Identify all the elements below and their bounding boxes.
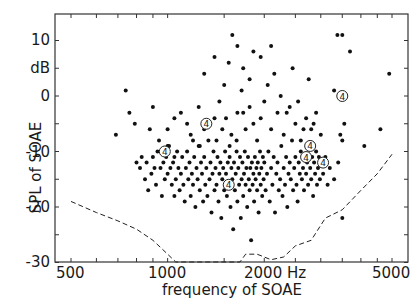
data-point bbox=[202, 155, 206, 159]
data-point bbox=[301, 166, 305, 170]
data-point bbox=[260, 194, 264, 198]
data-point bbox=[290, 138, 294, 142]
data-point bbox=[221, 166, 225, 170]
circled-4-label: 4 bbox=[226, 180, 232, 190]
data-point bbox=[223, 150, 227, 154]
data-point bbox=[235, 199, 239, 203]
data-point bbox=[235, 111, 239, 115]
data-point bbox=[200, 172, 204, 176]
data-point bbox=[248, 166, 252, 170]
data-point bbox=[244, 166, 248, 170]
data-point bbox=[264, 188, 268, 192]
data-point bbox=[348, 50, 352, 54]
data-point bbox=[304, 172, 308, 176]
data-point bbox=[240, 177, 244, 181]
data-point bbox=[254, 166, 258, 170]
data-point bbox=[293, 122, 297, 126]
data-point bbox=[222, 83, 226, 87]
data-point bbox=[179, 111, 183, 115]
data-point bbox=[282, 166, 286, 170]
data-point bbox=[287, 172, 291, 176]
data-point bbox=[259, 116, 263, 120]
data-point bbox=[257, 211, 261, 215]
data-point bbox=[198, 144, 202, 148]
data-point bbox=[161, 161, 165, 165]
data-point bbox=[257, 172, 261, 176]
data-point bbox=[279, 94, 283, 98]
data-point bbox=[186, 177, 190, 181]
data-point bbox=[247, 177, 251, 181]
data-point bbox=[241, 66, 245, 70]
data-point bbox=[124, 89, 128, 93]
data-point bbox=[259, 166, 263, 170]
data-point bbox=[259, 55, 263, 59]
data-point bbox=[276, 161, 280, 165]
data-point bbox=[262, 100, 266, 104]
data-point bbox=[285, 205, 289, 209]
data-point bbox=[249, 238, 253, 242]
data-point bbox=[206, 138, 210, 142]
data-point bbox=[378, 127, 382, 131]
data-point bbox=[296, 100, 300, 104]
data-point bbox=[172, 155, 176, 159]
data-point bbox=[201, 199, 205, 203]
data-point bbox=[170, 183, 174, 187]
data-point bbox=[340, 33, 344, 37]
data-point bbox=[145, 161, 149, 165]
circled-4-label: 4 bbox=[162, 147, 168, 157]
data-point bbox=[149, 172, 153, 176]
data-point bbox=[279, 144, 283, 148]
data-point bbox=[342, 122, 346, 126]
data-point bbox=[251, 50, 255, 54]
data-point bbox=[174, 177, 178, 181]
data-point bbox=[336, 161, 340, 165]
data-point bbox=[276, 111, 280, 115]
circled-4-label: 4 bbox=[320, 158, 326, 168]
data-point bbox=[291, 66, 295, 70]
data-point bbox=[256, 161, 260, 165]
data-point bbox=[240, 89, 244, 93]
data-point bbox=[255, 138, 259, 142]
circled-4-label: 4 bbox=[303, 153, 309, 163]
data-point bbox=[178, 188, 182, 192]
data-point bbox=[282, 133, 286, 137]
data-point bbox=[218, 161, 222, 165]
data-point bbox=[299, 138, 303, 142]
data-point bbox=[273, 211, 277, 215]
data-point bbox=[265, 172, 269, 176]
data-point bbox=[202, 72, 206, 76]
y-tick-label-minus-30: -30 bbox=[10, 255, 50, 270]
data-point bbox=[213, 116, 217, 120]
data-point bbox=[269, 127, 273, 131]
data-point bbox=[328, 166, 332, 170]
data-point bbox=[326, 183, 330, 187]
data-point bbox=[235, 150, 239, 154]
data-point bbox=[387, 72, 391, 76]
data-point bbox=[272, 155, 276, 159]
data-point bbox=[261, 155, 265, 159]
x-tick-label-5000: 5000 bbox=[372, 266, 410, 281]
data-point bbox=[248, 77, 252, 81]
data-point bbox=[224, 116, 228, 120]
data-point bbox=[308, 166, 312, 170]
data-point bbox=[138, 166, 142, 170]
data-point bbox=[220, 127, 224, 131]
data-point bbox=[197, 105, 201, 109]
data-point bbox=[259, 183, 263, 187]
data-point bbox=[179, 172, 183, 176]
data-point bbox=[255, 188, 259, 192]
data-point bbox=[244, 183, 248, 187]
data-point bbox=[283, 183, 287, 187]
data-point bbox=[196, 177, 200, 181]
data-point bbox=[215, 138, 219, 142]
data-point bbox=[217, 172, 221, 176]
data-point bbox=[241, 111, 245, 115]
data-point bbox=[193, 205, 197, 209]
data-point bbox=[157, 138, 161, 142]
data-point bbox=[340, 216, 344, 220]
data-point bbox=[268, 199, 272, 203]
data-point bbox=[204, 166, 208, 170]
data-point bbox=[226, 161, 230, 165]
data-point bbox=[215, 183, 219, 187]
data-point bbox=[235, 44, 239, 48]
